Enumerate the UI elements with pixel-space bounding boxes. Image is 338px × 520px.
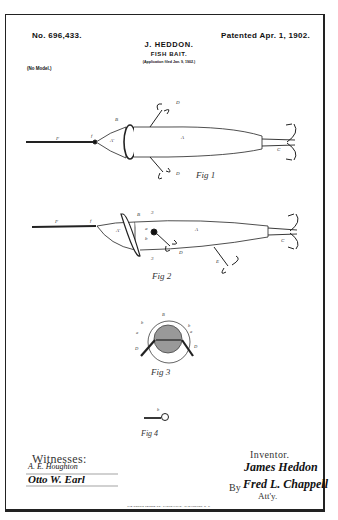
attorney-signature: Fred L. Chappell [243, 477, 328, 492]
svg-text:C: C [281, 238, 285, 243]
svg-text:f: f [90, 218, 92, 223]
svg-text:a: a [136, 330, 139, 335]
witness-2-signature: Otto W. Earl [28, 473, 85, 485]
svg-text:Fig 3: Fig 3 [150, 367, 171, 377]
svg-text:a: a [190, 329, 193, 334]
svg-text:Fig 2: Fig 2 [151, 271, 172, 281]
svg-text:b: b [141, 320, 144, 325]
svg-text:D: D [178, 250, 183, 255]
svg-text:Fig 1: Fig 1 [195, 170, 215, 180]
svg-text:D: D [134, 346, 139, 351]
attorney-label: Att'y. [258, 491, 277, 501]
by-label: By [229, 482, 241, 493]
svg-text:B: B [115, 117, 118, 122]
svg-text:Fig 4: Fig 4 [140, 429, 158, 438]
svg-text:D: D [175, 100, 180, 105]
figure-2-drawing: Ff BA' Aa bD EC 33 Fig 2 [32, 210, 298, 281]
witness-1-signature: A. E. Houghton [28, 462, 78, 471]
svg-text:E: E [215, 259, 219, 264]
inventor-signature: James Heddon [244, 460, 318, 475]
svg-text:b: b [157, 407, 160, 412]
inventor-label: Inventor. [250, 449, 289, 460]
svg-text:C: C [277, 147, 281, 152]
patent-drawings: Ff BA' AD DC Fig 1 Ff BA' Aa bD EC 33 Fi… [0, 0, 338, 520]
svg-text:B: B [137, 212, 140, 217]
figure-4-drawing: b Fig 4 [140, 407, 169, 438]
figure-3-drawing: Bb ab aD D Fig 3 [134, 312, 198, 377]
svg-text:D: D [193, 344, 198, 349]
svg-text:3: 3 [151, 210, 154, 215]
svg-text:D: D [175, 171, 180, 176]
figure-1-drawing: Ff BA' AD DC Fig 1 [26, 100, 296, 180]
svg-text:3: 3 [151, 256, 154, 261]
svg-text:F: F [54, 219, 59, 224]
svg-text:F: F [55, 136, 60, 141]
svg-text:f: f [91, 133, 93, 138]
printer-imprint: THE NORRIS PETERS CO., PHOTO-LITHO., WAS… [0, 505, 338, 508]
svg-text:b: b [188, 323, 191, 328]
svg-text:B: B [162, 312, 165, 317]
